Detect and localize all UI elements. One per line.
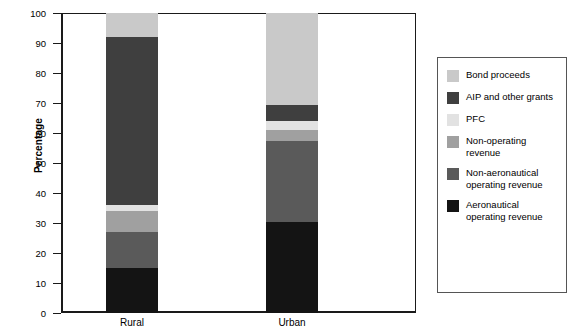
legend-item-label: PFC <box>466 113 485 125</box>
x-axis-label-rural: Rural <box>87 317 177 328</box>
y-axis-tick <box>53 193 61 194</box>
bar-urban <box>266 13 318 313</box>
y-axis-tick-label: 70 <box>16 98 46 109</box>
bar-segment <box>106 205 158 211</box>
legend-swatch-icon <box>447 200 459 212</box>
bar-segment <box>106 268 158 313</box>
y-axis-tick <box>53 13 61 14</box>
legend-swatch-icon <box>447 70 459 82</box>
legend-item-label: Non-aeronautical operating revenue <box>466 167 560 190</box>
y-axis-tick <box>53 283 61 284</box>
legend-item[interactable]: Aeronautical operating revenue <box>447 199 560 222</box>
legend-item[interactable]: Bond proceeds <box>447 69 560 82</box>
y-axis-tick-label: 40 <box>16 188 46 199</box>
y-axis-tick-label: 0 <box>16 308 46 319</box>
y-axis-tick-label: 10 <box>16 278 46 289</box>
legend-item-label: Aeronautical operating revenue <box>466 199 560 222</box>
y-axis-tick <box>53 163 61 164</box>
legend-item[interactable]: AIP and other grants <box>447 91 560 104</box>
legend-item[interactable]: Non-aeronautical operating revenue <box>447 167 560 190</box>
bar-segment <box>266 105 318 122</box>
stacked-bar-chart: Percentage 1009080706050403020100 RuralU… <box>0 0 573 334</box>
bar-segment <box>266 141 318 222</box>
y-axis-tick <box>53 223 61 224</box>
y-axis-tick-label: 80 <box>16 68 46 79</box>
legend-swatch-icon <box>447 168 459 180</box>
y-axis-tick-label: 60 <box>16 128 46 139</box>
bar-segment <box>266 13 318 105</box>
x-axis-label-urban: Urban <box>247 317 337 328</box>
legend-item-label: AIP and other grants <box>466 91 553 103</box>
bar-segment <box>266 222 318 314</box>
y-axis-tick-label: 100 <box>16 8 46 19</box>
bar-segment <box>266 130 318 141</box>
bar-segment <box>106 13 158 37</box>
y-axis-tick <box>53 103 61 104</box>
y-axis-tick-label: 20 <box>16 248 46 259</box>
bar-segment <box>106 232 158 268</box>
chart-legend: Bond proceedsAIP and other grantsPFCNon-… <box>437 57 567 293</box>
legend-item[interactable]: PFC <box>447 113 560 126</box>
bar-segment <box>266 121 318 130</box>
y-axis-tick <box>53 73 61 74</box>
y-axis-tick-label: 50 <box>16 158 46 169</box>
y-axis-tick <box>53 253 61 254</box>
y-axis-tick <box>53 133 61 134</box>
y-axis-tick <box>53 313 61 314</box>
y-axis-tick-label: 90 <box>16 38 46 49</box>
bar-segment <box>106 211 158 232</box>
legend-swatch-icon <box>447 92 459 104</box>
legend-swatch-icon <box>447 136 459 148</box>
y-axis-tick <box>53 43 61 44</box>
legend-item-label: Bond proceeds <box>466 69 530 81</box>
bars-container <box>61 13 416 313</box>
y-axis-tick-label: 30 <box>16 218 46 229</box>
legend-item[interactable]: Non-operating revenue <box>447 135 560 158</box>
legend-swatch-icon <box>447 114 459 126</box>
bar-segment <box>106 37 158 205</box>
bar-rural <box>106 13 158 313</box>
legend-items: Bond proceedsAIP and other grantsPFCNon-… <box>447 69 560 222</box>
legend-item-label: Non-operating revenue <box>466 135 560 158</box>
